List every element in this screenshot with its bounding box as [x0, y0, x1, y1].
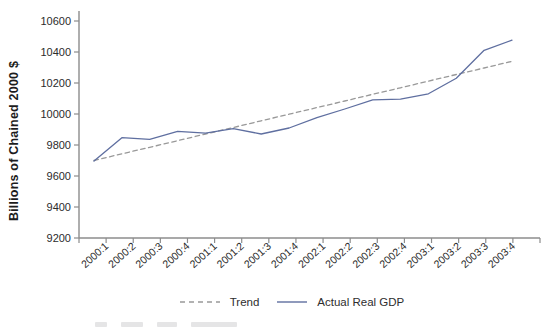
x-tick-label: 2002:2 [323, 239, 355, 270]
x-tick-label: 2003:2 [431, 239, 463, 270]
gdp-line-chart: 9200940096009800100001020010400106002000… [0, 0, 541, 328]
legend-label-trend: Trend [230, 296, 260, 308]
y-tick-label: 9600 [47, 170, 71, 182]
y-tick-label: 9800 [47, 139, 71, 151]
legend-label-actual: Actual Real GDP [317, 296, 404, 308]
x-tick-label: 2000:2 [106, 239, 138, 270]
x-tick-label: 2003:3 [458, 239, 490, 270]
trend-line [94, 61, 512, 160]
x-tick-label: 2000:4 [160, 239, 192, 270]
chart-legend: Trend Actual Real GDP [0, 293, 541, 311]
trend-line-sample-icon [179, 299, 221, 305]
x-tick-label: 2003:4 [485, 239, 517, 270]
x-tick-label: 2000:3 [133, 239, 165, 270]
y-axis-title: Billions of Chained 2000 $ [7, 50, 21, 232]
clipped-print-artifact [95, 322, 237, 328]
legend-item-actual: Actual Real GDP [276, 296, 404, 308]
x-tick-label: 2001:1 [187, 239, 219, 270]
y-tick-label: 9200 [47, 232, 71, 244]
x-tick-label: 2001:4 [268, 239, 300, 270]
actual-real-gdp-line [94, 40, 512, 161]
gdp-trend-figure: 9200940096009800100001020010400106002000… [0, 0, 541, 328]
x-tick-label: 2001:3 [241, 239, 273, 270]
actual-line-sample-icon [276, 299, 308, 305]
x-tick-label: 2002:3 [350, 239, 382, 270]
x-tick-label: 2001:2 [214, 239, 246, 270]
y-tick-label: 10600 [40, 15, 71, 27]
y-tick-label: 10000 [40, 108, 71, 120]
y-tick-label: 9400 [47, 201, 71, 213]
legend-item-trend: Trend [179, 296, 260, 308]
x-tick-label: 2002:4 [377, 239, 409, 270]
y-tick-label: 10200 [40, 77, 71, 89]
x-tick-label: 2000:1 [79, 239, 111, 270]
x-tick-label: 2002:1 [295, 239, 327, 270]
y-tick-label: 10400 [40, 46, 71, 58]
x-tick-label: 2003:1 [404, 239, 436, 270]
